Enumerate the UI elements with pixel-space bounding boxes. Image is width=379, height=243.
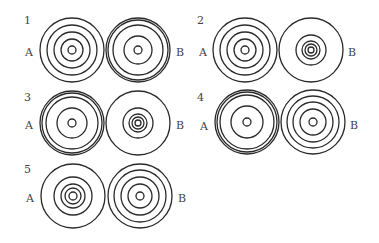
target-a: A xyxy=(24,18,104,82)
label-b: B xyxy=(350,119,358,132)
concentric-circles-diagram: 1AB2AB3AB4AB5AB xyxy=(0,0,379,243)
panel-4: 4AB xyxy=(197,90,358,154)
ring xyxy=(215,90,279,154)
target-b: B xyxy=(281,90,358,154)
ring xyxy=(217,92,277,152)
target-b: B xyxy=(279,18,356,82)
panel-2: 2AB xyxy=(197,14,356,82)
target-a: A xyxy=(24,91,104,155)
label-b: B xyxy=(178,192,186,205)
ring xyxy=(106,18,170,82)
ring xyxy=(123,108,153,138)
ring xyxy=(132,117,144,129)
ring xyxy=(68,119,76,127)
target-a: A xyxy=(199,90,279,154)
ring xyxy=(300,109,326,135)
ring xyxy=(309,118,317,126)
ring xyxy=(41,164,105,228)
ring xyxy=(305,44,317,56)
ring xyxy=(40,91,104,155)
panel-3: 3AB xyxy=(24,91,184,155)
panel-1: 1AB xyxy=(24,14,184,82)
ring xyxy=(124,36,152,64)
ring xyxy=(42,93,102,153)
label-b: B xyxy=(348,46,356,59)
ring xyxy=(279,18,343,82)
target-b: B xyxy=(108,164,186,228)
ring xyxy=(54,177,92,215)
label-a: A xyxy=(198,46,208,59)
panel-number: 5 xyxy=(24,163,31,176)
panel-number: 1 xyxy=(24,14,31,27)
panel-5: 5AB xyxy=(24,163,186,228)
ring xyxy=(135,120,141,126)
target-b: B xyxy=(106,91,184,155)
ring xyxy=(57,108,87,138)
ring xyxy=(308,47,314,53)
label-a: A xyxy=(24,46,34,59)
ring xyxy=(243,118,251,126)
ring xyxy=(113,25,163,75)
panel-number: 4 xyxy=(197,91,204,104)
ring xyxy=(114,170,166,222)
ring xyxy=(61,39,83,61)
ring xyxy=(241,46,249,54)
label-a: A xyxy=(199,120,209,133)
ring xyxy=(128,184,152,208)
ring xyxy=(46,97,98,149)
ring xyxy=(40,18,104,82)
ring xyxy=(234,39,256,61)
ring xyxy=(134,46,142,54)
ring xyxy=(65,188,81,204)
ring xyxy=(121,177,159,215)
ring xyxy=(287,96,339,148)
label-a: A xyxy=(24,119,34,132)
label-b: B xyxy=(176,46,184,59)
panel-number: 2 xyxy=(197,14,204,27)
ring xyxy=(106,91,170,155)
ring xyxy=(231,106,263,138)
ring xyxy=(108,164,172,228)
target-a: A xyxy=(25,164,105,228)
target-b: B xyxy=(106,18,184,82)
ring xyxy=(54,32,90,68)
label-a: A xyxy=(25,192,35,205)
ring xyxy=(213,18,277,82)
ring xyxy=(293,102,333,142)
ring xyxy=(68,46,76,54)
ring xyxy=(108,20,168,80)
ring xyxy=(136,192,144,200)
ring xyxy=(69,192,77,200)
panel-number: 3 xyxy=(24,91,31,104)
ring xyxy=(281,90,345,154)
ring xyxy=(227,32,263,68)
label-b: B xyxy=(176,119,184,132)
ring xyxy=(220,95,274,149)
ring xyxy=(296,35,326,65)
target-a: A xyxy=(198,18,277,82)
